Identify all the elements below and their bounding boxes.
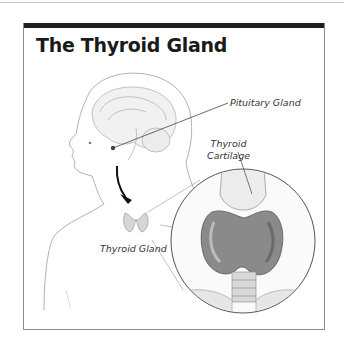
label-cartilage-line1: Thyroid <box>207 138 250 150</box>
magnified-thyroid-circle <box>171 152 315 320</box>
small-thyroid-icon <box>124 213 148 232</box>
thyroid-illustration <box>0 0 344 345</box>
brain-illustration <box>92 87 176 160</box>
arrow-icon <box>117 166 126 198</box>
label-pituitary-gland: Pituitary Gland <box>230 97 301 109</box>
label-cartilage-line2: Cartilage <box>207 150 250 162</box>
label-thyroid-gland: Thyroid Gland <box>100 243 167 255</box>
label-thyroid-cartilage: Thyroid Cartilage <box>207 138 250 162</box>
